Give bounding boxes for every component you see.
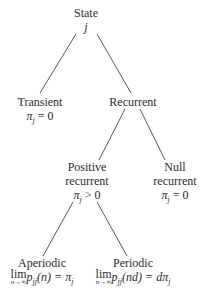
node-aperiodic: Aperiodic limn→∞pjj(n) = πj bbox=[2, 256, 82, 289]
periodic-limit: limn→∞pjj(nd) = dπj bbox=[88, 270, 178, 289]
null-condition: πj = 0 bbox=[150, 188, 200, 207]
recurrent-label: Recurrent bbox=[108, 95, 158, 109]
transient-condition: πj = 0 bbox=[10, 109, 70, 128]
state-var: j bbox=[66, 20, 106, 34]
transient-label: Transient bbox=[10, 95, 70, 109]
node-null-recurrent: Null recurrent πj = 0 bbox=[150, 160, 200, 207]
tree-edges bbox=[0, 0, 205, 297]
state-label: State bbox=[66, 6, 106, 20]
positive-condition: πj > 0 bbox=[62, 188, 112, 207]
edge-recurrent-null bbox=[140, 109, 165, 160]
node-positive-recurrent: Positive recurrent πj > 0 bbox=[62, 160, 112, 207]
edge-recurrent-positive bbox=[99, 109, 125, 160]
edge-state-transient bbox=[40, 34, 76, 93]
node-transient: Transient πj = 0 bbox=[10, 95, 70, 128]
aperiodic-limit: limn→∞pjj(n) = πj bbox=[2, 270, 82, 289]
node-recurrent: Recurrent bbox=[108, 95, 158, 109]
node-periodic: Periodic limn→∞pjj(nd) = dπj bbox=[88, 256, 178, 289]
edge-positive-aperiodic bbox=[43, 202, 73, 256]
edge-state-recurrent bbox=[97, 34, 131, 93]
edge-positive-periodic bbox=[97, 202, 127, 256]
node-state: State j bbox=[66, 6, 106, 34]
